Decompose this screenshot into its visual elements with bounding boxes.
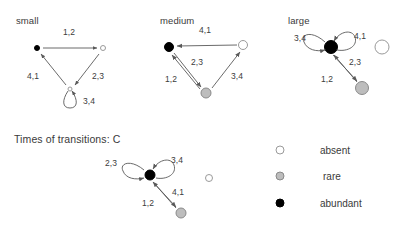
arrow-small-lower-to-abundant — [41, 54, 66, 85]
transitions-c-node-abundant[interactable] — [145, 170, 156, 181]
medium-node-absent[interactable] — [238, 40, 248, 50]
large-node-rare[interactable] — [355, 81, 369, 95]
legend-marker-abundant — [276, 199, 285, 208]
small-node-abundant[interactable] — [34, 45, 40, 51]
small-edge-label-4-1: 4,1 — [27, 71, 39, 81]
panel-title-small: small — [16, 15, 39, 26]
large-edge-label-1-2: 1,2 — [321, 74, 333, 84]
figure-canvas: small medium large Times of transitions:… — [0, 0, 417, 235]
transitions-c-edge-label-4-1: 4,1 — [172, 187, 184, 197]
small-edge-label-3-4: 3,4 — [83, 96, 95, 106]
large-node-absent-isolated[interactable] — [375, 40, 390, 55]
legend-label-abundant: abundant — [320, 198, 362, 209]
self-loop-large-left — [303, 34, 325, 50]
legend-marker-absent — [276, 146, 285, 155]
large-edge-label-4-1: 4,1 — [354, 31, 366, 41]
transitions-c-edge-label-2-3: 2,3 — [105, 158, 117, 168]
legend-label-absent: absent — [320, 145, 350, 156]
large-edge-label-3-4: 3,4 — [294, 33, 306, 43]
medium-edge-label-4-1: 4,1 — [199, 25, 211, 35]
transitions-c-node-rare[interactable] — [176, 208, 187, 219]
small-edge-label-1-2: 1,2 — [63, 27, 75, 37]
small-edge-label-2-3: 2,3 — [92, 71, 104, 81]
large-edge-label-2-3: 2,3 — [349, 57, 361, 67]
transitions-c-edge-label-3-4: 3,4 — [171, 155, 183, 165]
small-node-absent-lower[interactable] — [68, 87, 73, 92]
arrow-medium-absent-to-abundant — [177, 45, 237, 46]
legend-label-rare: rare — [323, 171, 341, 182]
medium-edge-label-3-4: 3,4 — [231, 71, 243, 81]
self-loop-c-left — [122, 163, 144, 179]
medium-edge-label-2-3: 2,3 — [191, 57, 203, 67]
transitions-c-node-absent-isolated[interactable] — [205, 174, 213, 182]
arrow-medium-rare-to-absent — [212, 52, 240, 88]
legend-marker-rare — [276, 172, 285, 181]
section-title-times-of-transitions: Times of transitions: C — [14, 133, 120, 145]
medium-node-rare[interactable] — [201, 88, 212, 99]
medium-edge-label-1-2: 1,2 — [165, 74, 177, 84]
large-node-abundant[interactable] — [324, 40, 338, 54]
small-node-absent[interactable] — [100, 45, 106, 51]
self-loop-small-lower — [64, 91, 77, 108]
panel-title-large: large — [288, 15, 310, 26]
medium-node-abundant[interactable] — [164, 42, 174, 52]
panel-title-medium: medium — [160, 15, 194, 26]
transitions-c-edge-label-1-2: 1,2 — [142, 198, 154, 208]
